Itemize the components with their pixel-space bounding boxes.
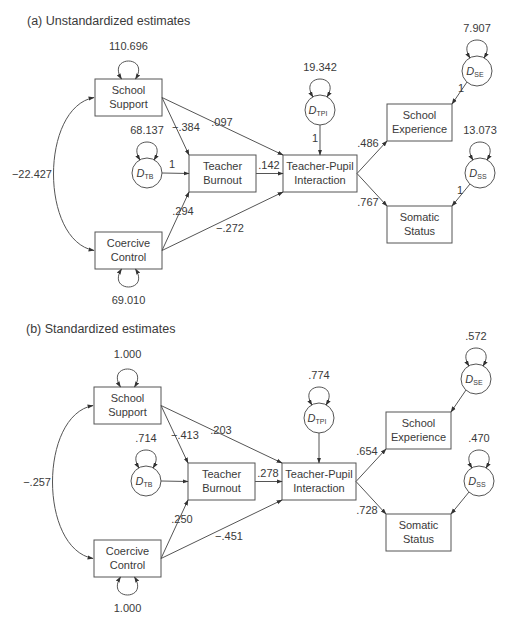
variance-d-tb: .714 <box>135 432 156 444</box>
node-label-line2: Support <box>108 406 147 418</box>
node-school-experience: SchoolExperience <box>386 412 451 449</box>
panel-a: (a) Unstandardized estimatesSchoolSuppor… <box>12 14 497 306</box>
coef-tpi-to-se: .654 <box>356 445 377 457</box>
path-dtb-to-tb <box>162 173 189 174</box>
node-somatic-status: SomaticStatus <box>387 206 452 243</box>
disturbance-d-tpi: DTPI <box>304 403 334 433</box>
node-label-line1: Teacher-Pupil <box>286 160 353 172</box>
coef-tb-to-tpi: .278 <box>257 467 278 479</box>
coef-dtb-to-tb: 1 <box>169 158 175 170</box>
node-label-line2: Interaction <box>294 174 345 186</box>
variance-d-tpi: 19.342 <box>303 61 337 73</box>
variance-loop-d-tpi <box>310 79 330 97</box>
node-label-line2: Burnout <box>203 174 242 186</box>
disturbance-d-tb: DTB <box>131 466 161 496</box>
covariance-label: −.257 <box>23 476 51 488</box>
node-label-line1: Teacher <box>202 468 241 480</box>
coef-ss-to-tb: −.384 <box>172 121 200 133</box>
sem-path-diagram: (a) Unstandardized estimatesSchoolSuppor… <box>0 0 519 629</box>
variance-school-support: 110.696 <box>109 40 148 52</box>
covariance-arc <box>53 406 94 559</box>
node-somatic-status: SomaticStatus <box>386 514 451 551</box>
node-school-support: SchoolSupport <box>95 79 162 116</box>
node-label-line1: Teacher <box>203 160 242 172</box>
variance-d-ss: .470 <box>468 432 489 444</box>
variance-loop-d-tpi <box>309 387 329 405</box>
node-label-line2: Control <box>111 251 146 263</box>
node-school-experience: SchoolExperience <box>387 104 452 141</box>
disturbance-d-se: DSE <box>461 364 491 394</box>
coef-tpi-to-se: .486 <box>357 137 378 149</box>
variance-loop-d-se <box>466 348 486 366</box>
variance-loop-d-ss <box>470 142 490 160</box>
node-label-line1: Coercive <box>107 237 150 249</box>
path-cc-to-tb <box>161 500 188 559</box>
path-dse-to-se <box>451 390 466 412</box>
variance-loop-school-support <box>118 61 138 79</box>
coef-cc-to-tpi: −.451 <box>215 530 243 542</box>
variance-d-se: .572 <box>465 330 486 342</box>
panel-b: (b) Standardized estimatesSchoolSupportC… <box>23 322 494 614</box>
coef-tpi-to-ss: .767 <box>357 196 378 208</box>
node-label-line2: Experience <box>391 431 446 443</box>
node-label-line1: School <box>111 392 145 404</box>
variance-school-support: 1.000 <box>114 348 142 360</box>
panel-title: (a) Unstandardized estimates <box>27 14 190 28</box>
node-label-line1: Coercive <box>106 545 149 557</box>
coef-tb-to-tpi: .142 <box>258 159 279 171</box>
node-label-line2: Interaction <box>293 482 344 494</box>
path-cc-to-tb <box>162 192 189 251</box>
node-label-line1: Teacher-Pupil <box>285 468 352 480</box>
coef-cc-to-tpi: −.272 <box>216 222 244 234</box>
variance-loop-d-se <box>467 40 487 58</box>
variance-loop-school-support <box>117 369 137 387</box>
node-teacher-burnout: TeacherBurnout <box>188 463 255 500</box>
node-label-line2: Status <box>403 533 435 545</box>
node-label-line2: Control <box>110 559 145 571</box>
disturbance-d-se: DSE <box>462 56 492 86</box>
disturbance-d-ss: DSS <box>465 158 495 188</box>
node-label-line1: Somatic <box>399 519 439 531</box>
covariance-label: −22.427 <box>12 168 52 180</box>
variance-coercive-control: 1.000 <box>114 602 142 614</box>
disturbance-d-tb: DTB <box>132 158 162 188</box>
disturbance-d-tpi: DTPI <box>305 95 335 125</box>
coef-tpi-to-ss: .728 <box>356 504 377 516</box>
node-label-line1: School <box>112 84 146 96</box>
node-coercive-control: CoerciveControl <box>94 540 161 577</box>
variance-d-se: 7.907 <box>463 22 491 34</box>
variance-loop-d-tb <box>136 450 156 468</box>
coef-dse-to-se: 1 <box>458 82 464 94</box>
node-teacher-burnout: TeacherBurnout <box>189 155 256 192</box>
variance-coercive-control: 69.010 <box>112 294 146 306</box>
path-dtb-to-tb <box>161 481 188 482</box>
node-label-line2: Burnout <box>202 482 241 494</box>
disturbance-d-ss: DSS <box>464 466 494 496</box>
coef-dss-to-ss: 1 <box>457 184 463 196</box>
node-label-line2: Support <box>109 98 148 110</box>
covariance-arc <box>54 98 95 251</box>
path-dss-to-ss <box>451 492 469 514</box>
variance-loop-coercive-control <box>117 577 137 595</box>
node-label-line2: Experience <box>392 123 447 135</box>
node-label-line1: Somatic <box>400 211 440 223</box>
coef-ss-to-tpi: .097 <box>211 116 232 128</box>
node-coercive-control: CoerciveControl <box>95 232 162 269</box>
variance-d-ss: 13.073 <box>463 124 497 136</box>
variance-loop-coercive-control <box>118 269 138 287</box>
coef-ss-to-tb: −.413 <box>171 429 199 441</box>
variance-loop-d-ss <box>469 450 489 468</box>
coef-dtpi-to-tpi: 1 <box>312 132 318 144</box>
node-tpi: Teacher-PupilInteraction <box>282 463 356 500</box>
node-label-line1: School <box>402 417 436 429</box>
coef-cc-to-tb: .250 <box>171 513 192 525</box>
node-label-line2: Status <box>404 225 436 237</box>
node-tpi: Teacher-PupilInteraction <box>283 155 357 192</box>
variance-loop-d-tb <box>137 142 157 160</box>
coef-cc-to-tb: .294 <box>172 205 193 217</box>
variance-d-tpi: .774 <box>308 369 329 381</box>
panel-title: (b) Standardized estimates <box>26 322 175 336</box>
node-school-support: SchoolSupport <box>94 387 161 424</box>
node-label-line1: School <box>403 109 437 121</box>
variance-d-tb: 68.137 <box>130 124 164 136</box>
